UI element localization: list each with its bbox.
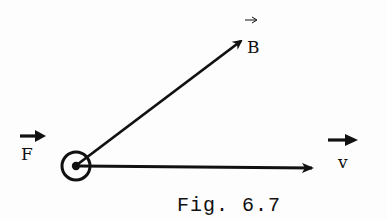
figure-canvas: B v F Fig. 6.7 [0, 0, 387, 221]
v-overarrow-icon [328, 134, 358, 146]
vector-v-label: v [338, 154, 348, 171]
f-overarrow-icon [20, 130, 46, 142]
vector-diagram [0, 0, 387, 221]
vector-b-label: B [247, 39, 260, 56]
b-overarrow-icon [245, 17, 257, 23]
vector-f-label: F [21, 146, 33, 163]
vector-b-arrow [78, 41, 241, 164]
vector-v-arrow [80, 166, 312, 168]
figure-caption: Fig. 6.7 [177, 196, 281, 216]
